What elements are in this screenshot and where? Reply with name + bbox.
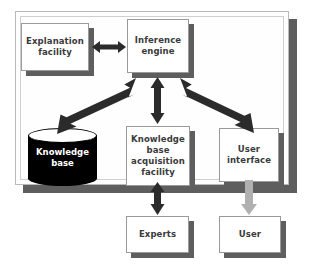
node-face: Inference engine [127,19,189,73]
node-face: Explanation facility [21,23,89,71]
node-face: User [219,216,281,253]
node-inference-engine[interactable]: Inference engine [127,19,189,73]
node-face: Experts [126,216,189,253]
node-face: User interface [219,128,279,182]
node-label: Explanation facility [26,36,84,58]
node-user-interface[interactable]: User interface [219,128,279,182]
node-knowledge-base[interactable]: Knowledge base [28,128,97,186]
node-kb-acquisition-facility[interactable]: Knowledge base acquisition facility [126,126,190,186]
cylinder-bottom [28,171,97,186]
node-label: Knowledge base [28,144,97,172]
node-label: User [239,229,261,240]
node-label: Experts [139,229,176,240]
node-user[interactable]: User [219,216,281,253]
node-experts[interactable]: Experts [126,216,189,253]
node-explanation-facility[interactable]: Explanation facility [21,23,89,71]
node-label: User interface [227,144,271,166]
diagram-canvas: Explanation facility Inference engine Kn… [0,0,315,273]
node-label: Knowledge base acquisition facility [131,134,185,178]
node-face: Knowledge base acquisition facility [126,126,190,186]
cylinder-top [28,128,97,143]
node-label: Inference engine [135,35,181,57]
